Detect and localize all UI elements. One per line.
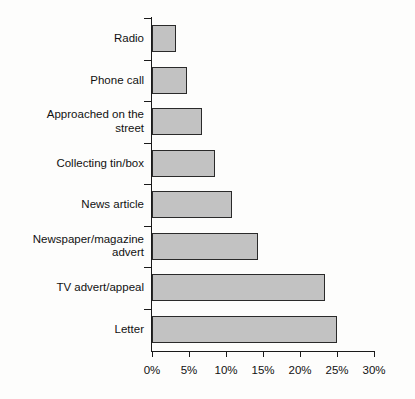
bar-fill <box>152 316 337 343</box>
bar-letter <box>152 316 337 343</box>
x-axis-tick-label: 30% <box>354 364 394 376</box>
x-axis-tick <box>374 351 375 357</box>
bar-fill <box>152 25 176 52</box>
y-axis-label: News article <box>4 198 144 212</box>
y-axis-tick <box>144 143 152 144</box>
x-axis-tick <box>189 351 190 357</box>
bar-phone-call <box>152 67 187 94</box>
x-axis-tick-label: 20% <box>280 364 320 376</box>
y-axis-tick <box>144 18 152 19</box>
bar-radio <box>152 25 176 52</box>
y-axis-label: Radio <box>4 32 144 46</box>
x-axis-tick <box>300 351 301 357</box>
y-axis-label: Letter <box>4 323 144 337</box>
x-axis-tick <box>152 351 153 357</box>
bar-fill <box>152 67 187 94</box>
x-axis-tick-label: 25% <box>317 364 357 376</box>
bar-tv-advert-appeal <box>152 274 325 301</box>
bar-fill <box>152 150 215 177</box>
y-axis-tick <box>144 60 152 61</box>
y-axis-tick <box>144 101 152 102</box>
bar-fill <box>152 191 232 218</box>
x-axis-tick <box>263 351 264 357</box>
plot-area <box>152 18 374 350</box>
bar-newspaper-magazine-advert <box>152 233 258 260</box>
bar-collecting-tin-box <box>152 150 215 177</box>
bar-news-article <box>152 191 232 218</box>
y-axis-tick <box>144 309 152 310</box>
bar-chart: RadioPhone callApproached on the streetC… <box>0 0 415 399</box>
y-axis-label: Newspaper/magazine advert <box>4 233 144 260</box>
bar-fill <box>152 233 258 260</box>
x-axis-tick-label: 0% <box>132 364 172 376</box>
x-axis-tick-label: 5% <box>169 364 209 376</box>
y-axis-tick <box>144 267 152 268</box>
y-axis-tick <box>144 226 152 227</box>
x-axis-tick <box>337 351 338 357</box>
y-axis-label: Approached on the street <box>4 108 144 135</box>
bar-approached-on-the-street <box>152 108 202 135</box>
y-axis-tick <box>144 184 152 185</box>
y-axis-label: Collecting tin/box <box>4 157 144 171</box>
y-axis-label: TV advert/appeal <box>4 281 144 295</box>
bar-fill <box>152 108 202 135</box>
x-axis-tick-label: 15% <box>243 364 283 376</box>
y-axis-label: Phone call <box>4 74 144 88</box>
x-axis-tick-label: 10% <box>206 364 246 376</box>
x-axis-tick <box>226 351 227 357</box>
bar-fill <box>152 274 325 301</box>
